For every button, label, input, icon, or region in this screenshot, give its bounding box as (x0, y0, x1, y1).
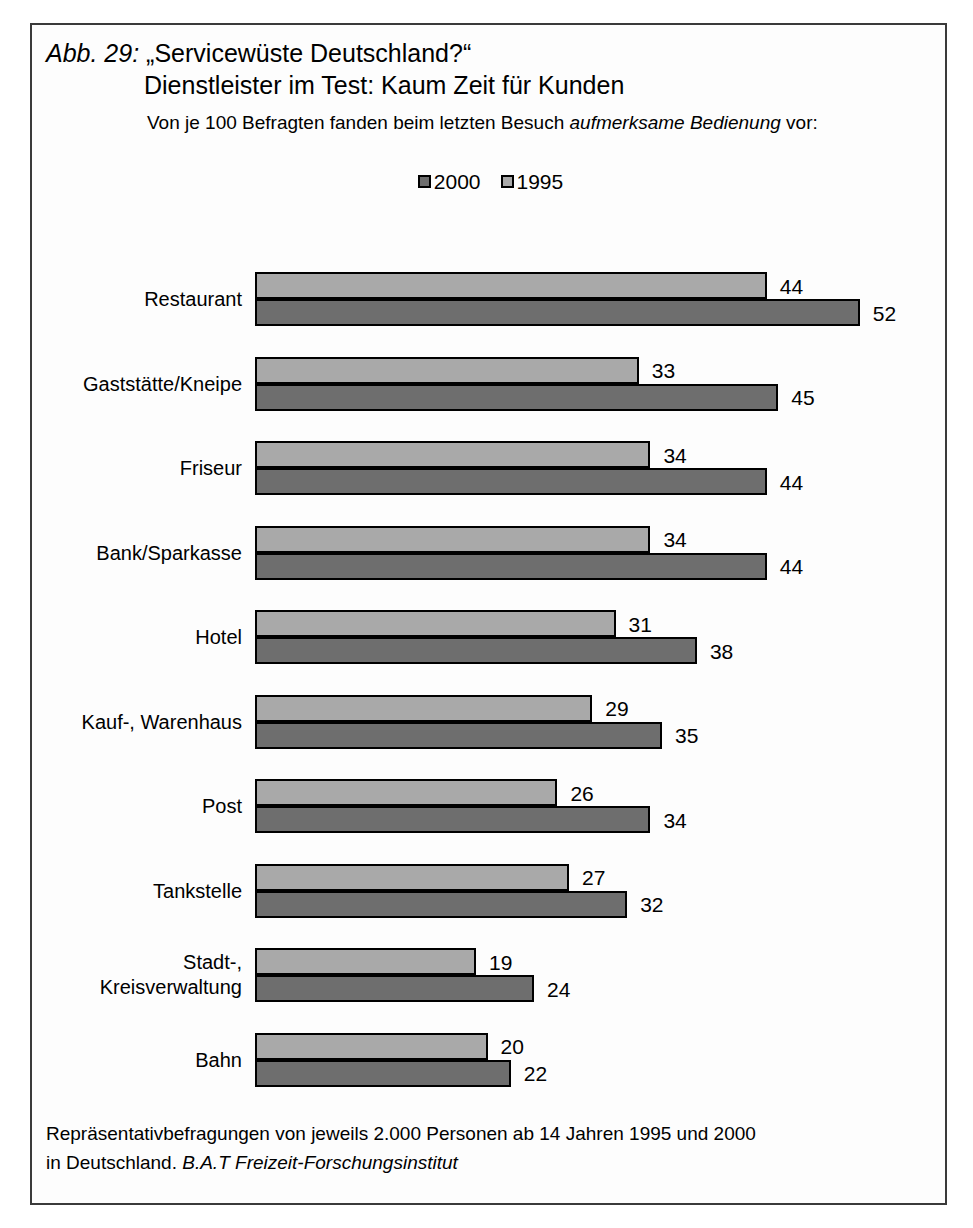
bar-group: Bank/Sparkasse3444 (32, 526, 949, 580)
figure-title-line1: Abb. 29: „Servicewüste Deutschland?“ (46, 37, 926, 69)
bar-group: Kauf-, Warenhaus2935 (32, 695, 949, 749)
bar-value-label: 35 (675, 725, 698, 746)
bar-value-label: 44 (780, 275, 803, 296)
legend-item-2000: 2000 (418, 171, 481, 192)
bar-1995 (255, 779, 557, 806)
source-institute: B.A.T Freizeit-Forschungsinstitut (182, 1152, 458, 1173)
bar-2000 (255, 722, 662, 749)
bar-1995 (255, 948, 476, 975)
bar-value-label: 32 (640, 894, 663, 915)
category-label: Friseur (0, 456, 242, 481)
legend-swatch-icon-2000 (418, 175, 431, 188)
legend-label-2000: 2000 (434, 171, 481, 192)
legend-label-1995: 1995 (517, 171, 564, 192)
subtitle-emphasis: aufmerksame Bedienung (570, 112, 781, 133)
bar-group: Hotel3138 (32, 610, 949, 664)
figure-source-note: Repräsentativbefragungen von jeweils 2.0… (46, 1119, 926, 1177)
bar-1995 (255, 357, 639, 384)
subtitle-suffix: vor: (781, 112, 818, 133)
category-label: Hotel (0, 625, 242, 650)
legend-item-1995: 1995 (501, 171, 564, 192)
category-label: Restaurant (0, 287, 242, 312)
bar-group: Bahn2022 (32, 1033, 949, 1087)
bar-value-label: 19 (489, 951, 512, 972)
bar-value-label: 31 (629, 613, 652, 634)
bar-1995 (255, 1033, 488, 1060)
category-label: Post (0, 794, 242, 819)
bar-value-label: 22 (524, 1063, 547, 1084)
bar-1995 (255, 695, 592, 722)
bar-value-label: 34 (663, 809, 686, 830)
bar-1995 (255, 864, 569, 891)
figure-title-line2: Dienstleister im Test: Kaum Zeit für Kun… (144, 69, 926, 101)
bar-2000 (255, 637, 697, 664)
title-block: Abb. 29: „Servicewüste Deutschland?“ Die… (46, 37, 926, 136)
figure-title-main: „Servicewüste Deutschland?“ (146, 39, 471, 67)
bar-1995 (255, 610, 616, 637)
bar-value-label: 38 (710, 640, 733, 661)
bar-2000 (255, 384, 778, 411)
bar-group: Post2634 (32, 779, 949, 833)
bar-group: Tankstelle2732 (32, 864, 949, 918)
chart-legend: 2000 1995 (32, 171, 949, 192)
bar-value-label: 34 (663, 444, 686, 465)
source-line-2-prefix: in Deutschland. (46, 1152, 182, 1173)
bar-value-label: 45 (791, 387, 814, 408)
bar-2000 (255, 468, 767, 495)
legend-swatch-icon-1995 (501, 175, 514, 188)
figure-number: Abb. 29: (46, 39, 139, 67)
bar-value-label: 27 (582, 867, 605, 888)
bar-value-label: 29 (605, 698, 628, 719)
category-label: Kauf-, Warenhaus (0, 709, 242, 734)
bar-2000 (255, 806, 650, 833)
bar-1995 (255, 272, 767, 299)
bar-2000 (255, 891, 627, 918)
source-line-2: in Deutschland. B.A.T Freizeit-Forschung… (46, 1148, 926, 1177)
category-label: Gaststätte/Kneipe (0, 371, 242, 396)
bar-group: Stadt-, Kreisverwaltung1924 (32, 948, 949, 1002)
bar-value-label: 24 (547, 978, 570, 999)
bar-value-label: 34 (663, 529, 686, 550)
figure-subtitle: Von je 100 Befragten fanden beim letzten… (147, 110, 926, 136)
category-label: Bahn (0, 1047, 242, 1072)
category-label: Stadt-, Kreisverwaltung (0, 950, 242, 1000)
bar-2000 (255, 975, 534, 1002)
bar-value-label: 44 (780, 556, 803, 577)
figure-frame: Abb. 29: „Servicewüste Deutschland?“ Die… (30, 23, 947, 1205)
bar-value-label: 44 (780, 471, 803, 492)
bar-1995 (255, 441, 650, 468)
bar-value-label: 26 (570, 782, 593, 803)
bar-group: Gaststätte/Kneipe3345 (32, 357, 949, 411)
source-line-1: Repräsentativbefragungen von jeweils 2.0… (46, 1119, 926, 1148)
bar-value-label: 52 (873, 302, 896, 323)
bar-value-label: 20 (501, 1036, 524, 1057)
category-label: Bank/Sparkasse (0, 540, 242, 565)
bar-1995 (255, 526, 650, 553)
bar-2000 (255, 299, 860, 326)
subtitle-prefix: Von je 100 Befragten fanden beim letzten… (147, 112, 570, 133)
bar-group: Friseur3444 (32, 441, 949, 495)
chart-plot-area: Restaurant4452Gaststätte/Kneipe3345Frise… (32, 228, 949, 1068)
bar-group: Restaurant4452 (32, 272, 949, 326)
bar-value-label: 33 (652, 360, 675, 381)
bar-2000 (255, 1060, 511, 1087)
bar-2000 (255, 553, 767, 580)
category-label: Tankstelle (0, 878, 242, 903)
